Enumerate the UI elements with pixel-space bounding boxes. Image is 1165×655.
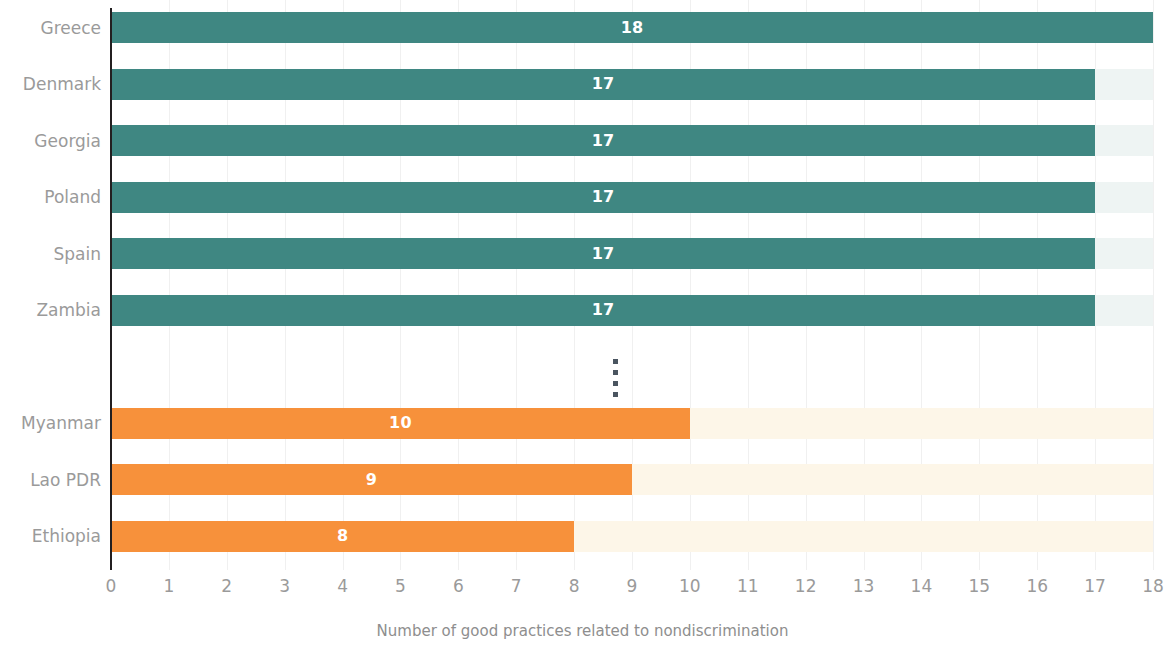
category-label-poland: Poland <box>1 189 101 206</box>
category-label-myanmar: Myanmar <box>1 415 101 432</box>
x-tick-label: 16 <box>1026 578 1048 595</box>
category-labels: GreeceDenmarkGeorgiaPolandSpainZambiaMya… <box>0 0 101 570</box>
bar-row[interactable]: 17 <box>111 238 1153 269</box>
bar-fill[interactable] <box>111 295 1095 326</box>
bar-fill[interactable] <box>111 12 1153 43</box>
bar-fill[interactable] <box>111 464 632 495</box>
bar-row[interactable]: 17 <box>111 69 1153 100</box>
bar-fill[interactable] <box>111 521 574 552</box>
x-tick-label: 0 <box>106 578 117 595</box>
bar-row[interactable]: 10 <box>111 408 1153 439</box>
x-tick-label: 17 <box>1084 578 1106 595</box>
x-tick-label: 12 <box>795 578 817 595</box>
category-label-denmark: Denmark <box>1 76 101 93</box>
x-tick-label: 3 <box>279 578 290 595</box>
x-tick-label: 1 <box>163 578 174 595</box>
category-label-spain: Spain <box>1 246 101 263</box>
x-tick-label: 9 <box>627 578 638 595</box>
bar-chart: 1817171717171098 GreeceDenmarkGeorgiaPol… <box>0 0 1165 655</box>
average-marker-icon <box>613 359 618 402</box>
gridline <box>1153 0 1154 570</box>
bar-fill[interactable] <box>111 408 690 439</box>
bar-row[interactable]: 8 <box>111 521 1153 552</box>
x-axis-ticks: 0123456789101112131415161718 <box>111 578 1153 600</box>
x-tick-label: 6 <box>453 578 464 595</box>
x-tick-label: 2 <box>221 578 232 595</box>
x-tick-label: 5 <box>395 578 406 595</box>
plot-area: 1817171717171098 <box>111 0 1153 570</box>
x-tick-label: 13 <box>853 578 875 595</box>
x-tick-label: 4 <box>337 578 348 595</box>
x-tick-label: 11 <box>737 578 759 595</box>
x-tick-label: 18 <box>1142 578 1164 595</box>
bar-fill[interactable] <box>111 69 1095 100</box>
x-axis-title: Number of good practices related to nond… <box>0 624 1165 639</box>
bar-fill[interactable] <box>111 182 1095 213</box>
bar-row[interactable]: 17 <box>111 125 1153 156</box>
bar-fill[interactable] <box>111 125 1095 156</box>
bar-row[interactable]: 9 <box>111 464 1153 495</box>
bar-fill[interactable] <box>111 238 1095 269</box>
category-label-ethiopia: Ethiopia <box>1 528 101 545</box>
bar-row[interactable]: 17 <box>111 182 1153 213</box>
category-label-zambia: Zambia <box>1 302 101 319</box>
x-tick-label: 7 <box>511 578 522 595</box>
x-tick-label: 8 <box>569 578 580 595</box>
x-tick-label: 14 <box>911 578 933 595</box>
x-tick-label: 10 <box>679 578 701 595</box>
category-label-georgia: Georgia <box>1 133 101 150</box>
category-label-greece: Greece <box>1 20 101 37</box>
y-axis-line <box>110 8 112 570</box>
bar-row[interactable]: 18 <box>111 12 1153 43</box>
category-label-lao-pdr: Lao PDR <box>1 472 101 489</box>
x-tick-label: 15 <box>969 578 991 595</box>
bar-row[interactable]: 17 <box>111 295 1153 326</box>
